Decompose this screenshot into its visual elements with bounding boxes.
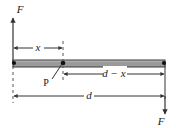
force-label-down-right: F	[157, 115, 165, 127]
dimension-label-d-minus-x: d − x	[102, 67, 125, 79]
force-couple-diagram: F F x d − x d P	[0, 0, 176, 128]
horizontal-bar	[13, 60, 165, 67]
dimension-label-d: d	[86, 89, 92, 101]
diagram-canvas: F F x d − x d P	[0, 0, 176, 128]
node-right-dot	[162, 61, 166, 65]
dimension-label-x: x	[35, 41, 41, 53]
node-left-dot	[12, 61, 16, 65]
point-label-p: P	[43, 77, 49, 88]
force-label-up-left: F	[16, 3, 24, 15]
